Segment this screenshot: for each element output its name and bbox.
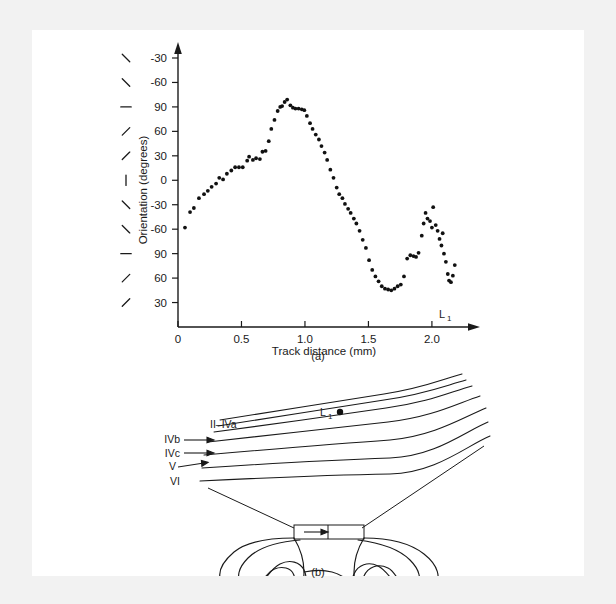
data-point [258, 157, 262, 161]
electrode-inset-box [294, 525, 364, 539]
data-point [269, 127, 273, 131]
x-axis-arrowhead [468, 323, 480, 331]
data-point [314, 133, 318, 137]
data-point [261, 150, 265, 154]
annotation-l1-subscript: 1 [447, 314, 452, 323]
panel-b-cortex-diagram: II–IVa IVb IVc V VI L 1 [32, 370, 584, 576]
data-point [399, 283, 403, 287]
data-point [367, 258, 371, 262]
y-tick-label: 60 [154, 125, 167, 137]
data-point [237, 165, 241, 169]
data-point [188, 210, 192, 214]
orientation-glyph-icon [122, 54, 129, 61]
data-point [328, 168, 332, 172]
data-point [434, 223, 438, 227]
figure-page: -30-609060300-30-60906030 00.51.01.52.0 … [0, 0, 616, 604]
data-point [364, 246, 368, 250]
orientation-glyph-icon [122, 79, 129, 86]
data-point [285, 98, 289, 102]
data-point [386, 288, 390, 292]
data-point [254, 156, 258, 160]
data-point [380, 284, 384, 288]
orientation-glyph-icon [122, 128, 129, 135]
data-point [206, 189, 210, 193]
data-point [444, 260, 448, 264]
cortex-anatomy-drawing: II–IVa IVb IVc V VI L 1 [32, 370, 584, 576]
data-point [402, 275, 406, 279]
data-point [341, 196, 345, 200]
data-point [332, 176, 336, 180]
data-point [192, 206, 196, 210]
y-tick-label: 30 [154, 150, 167, 162]
data-point [280, 104, 284, 108]
data-point [417, 251, 421, 255]
marker-l1-subscript: 1 [328, 412, 333, 421]
data-point [225, 172, 229, 176]
arrow-ivb [184, 437, 214, 443]
data-point [354, 222, 358, 226]
y-axis-arrowhead [174, 42, 182, 54]
data-point [264, 149, 268, 153]
y-tick-label: 60 [154, 272, 167, 284]
data-point [349, 211, 353, 215]
data-point [405, 257, 409, 261]
x-tick-label: 1.5 [360, 333, 376, 345]
x-axis [178, 323, 480, 331]
data-point [311, 127, 315, 131]
data-point [446, 272, 450, 276]
data-point [408, 253, 412, 257]
cortical-layer-lines [200, 374, 490, 481]
data-point [297, 107, 301, 111]
data-point [335, 186, 339, 190]
data-point [302, 108, 306, 112]
data-point [323, 151, 327, 155]
data-point [247, 155, 251, 159]
orientation-glyph-icon [122, 274, 129, 281]
y-tick-label: -30 [150, 199, 167, 211]
layer-label-vi: VI [170, 475, 180, 487]
data-point [383, 287, 387, 291]
data-point [233, 165, 237, 169]
data-point [221, 178, 225, 182]
orientation-glyph-icon [122, 225, 129, 232]
data-point [276, 109, 280, 113]
data-point [210, 185, 214, 189]
orientation-glyph-icon [122, 201, 129, 208]
data-point [325, 158, 329, 162]
x-tick-label: 0 [175, 333, 181, 345]
panel-a-orientation-plot: -30-609060300-30-60906030 00.51.01.52.0 … [32, 30, 584, 370]
data-point [414, 255, 418, 259]
y-tick-label: -60 [150, 76, 167, 88]
data-point [183, 226, 187, 230]
data-point [273, 118, 277, 122]
data-point [377, 279, 381, 283]
data-point [438, 237, 442, 241]
marker-l1-dot [337, 409, 343, 415]
data-point [422, 222, 426, 226]
data-point [424, 211, 428, 215]
data-point [393, 287, 397, 291]
y-tick-label: 30 [154, 297, 167, 309]
y-tick-label: -60 [150, 223, 167, 235]
data-point [197, 196, 201, 200]
arrow-ivc [184, 450, 214, 456]
data-point [431, 205, 435, 209]
layer-label-ivb: IVb [164, 433, 180, 445]
data-point [442, 252, 446, 256]
y-tick-label: 90 [154, 101, 167, 113]
y-tick-label: -30 [150, 52, 167, 64]
data-point [305, 114, 309, 118]
data-point [374, 275, 378, 279]
data-point-group [183, 98, 457, 293]
panel-b-caption: (b) [288, 566, 348, 578]
annotation-l1: L 1 [439, 308, 452, 323]
layer-label-ii-iva: II–IVa [210, 418, 237, 430]
panel-a-caption: (a) [288, 350, 348, 362]
y-axis-ticks: -30-609060300-30-60906030 [121, 52, 178, 309]
data-point [308, 121, 312, 125]
marker-l1-label: L [320, 406, 326, 418]
data-point [317, 138, 321, 142]
data-point [420, 234, 424, 238]
data-point [267, 139, 271, 143]
data-point [343, 202, 347, 206]
